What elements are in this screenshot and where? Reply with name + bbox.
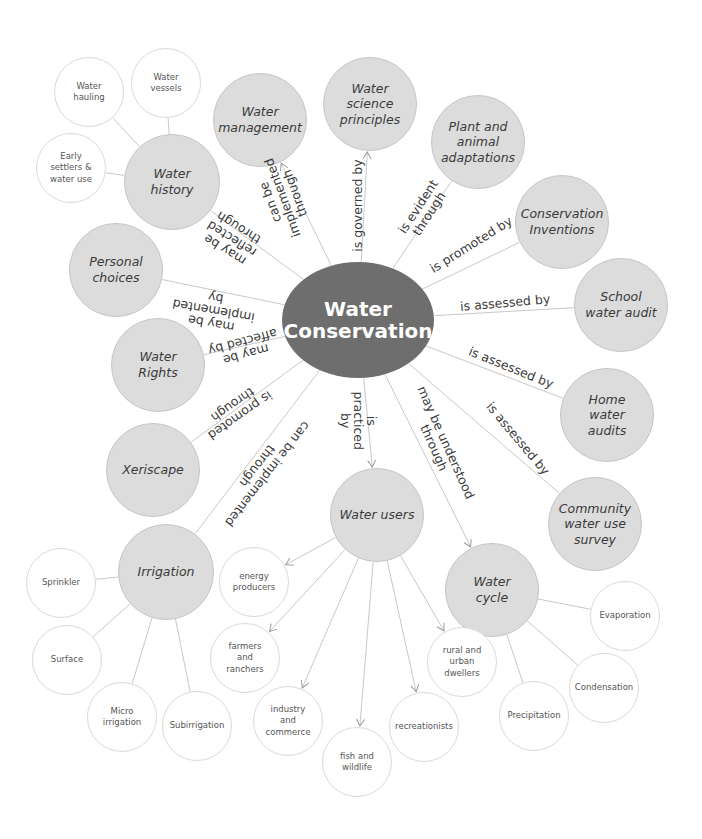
node-water-history: Water history — [124, 134, 220, 230]
leaf-line-energy-producers — [286, 537, 336, 564]
node-surface: Surface — [32, 625, 102, 695]
node-community-survey: Community water use survey — [548, 477, 642, 571]
node-precipitation: Precipitation — [499, 681, 569, 751]
leaf-line-sprinkler — [96, 577, 118, 579]
leaf-line-surface — [93, 604, 130, 637]
node-label: Water science principles — [336, 81, 404, 128]
node-condensation: Condensation — [569, 653, 639, 723]
node-label: Water vessels — [146, 72, 185, 94]
node-personal-choices: Personal choices — [69, 223, 163, 317]
leaf-line-water-vessels — [168, 118, 169, 134]
link-label-water-users: is practiced by — [339, 391, 378, 449]
node-label: Sprinkler — [38, 577, 84, 588]
node-label: industry and commerce — [262, 704, 315, 737]
node-school-audit: School water audit — [574, 258, 668, 352]
node-label: School water audit — [581, 289, 660, 320]
node-micro-irrigation: Micro irrigation — [87, 682, 157, 752]
node-label: Water Rights — [134, 349, 181, 380]
node-label: farmers and ranchers — [222, 641, 267, 674]
node-rural-urban: rural and urban dwellers — [427, 627, 497, 697]
node-label: Water cycle — [469, 574, 514, 605]
node-label: Surface — [47, 654, 87, 665]
leaf-line-precipitation — [507, 635, 523, 683]
leaf-line-recreationists — [387, 561, 416, 692]
node-irrigation: Irrigation — [118, 524, 214, 620]
node-label: recreationists — [391, 721, 457, 732]
node-label: Precipitation — [503, 710, 564, 721]
node-farmers-ranchers: farmers and ranchers — [210, 623, 280, 693]
leaf-line-micro-irrigation — [132, 618, 152, 684]
node-evaporation: Evaporation — [590, 581, 660, 651]
leaf-line-subirrigation — [175, 619, 190, 692]
node-label: Water users — [336, 507, 419, 523]
node-label: Xeriscape — [118, 462, 188, 478]
node-subirrigation: Subirrigation — [162, 691, 232, 761]
node-recreationists: recreationists — [389, 692, 459, 762]
node-water-conservation: Water Conservation — [282, 262, 434, 378]
node-label: Home water audits — [584, 392, 630, 439]
node-label: Personal choices — [85, 254, 147, 285]
node-conservation-inventions: Conservation Inventions — [515, 175, 609, 269]
node-label: rural and urban dwellers — [439, 645, 486, 678]
node-water-users: Water users — [330, 468, 424, 562]
node-label: Conservation Inventions — [517, 206, 608, 237]
node-label: Micro irrigation — [99, 706, 145, 728]
node-label: Evaporation — [595, 610, 654, 621]
node-label: Condensation — [571, 682, 637, 693]
node-xeriscape: Xeriscape — [106, 423, 200, 517]
node-label: Water history — [147, 166, 198, 197]
node-label: Community water use survey — [555, 501, 635, 548]
leaf-line-industry-commerce — [302, 558, 358, 688]
node-industry-commerce: industry and commerce — [253, 686, 323, 756]
node-plant-animal: Plant and animal adaptations — [431, 95, 525, 189]
node-sprinkler: Sprinkler — [26, 548, 96, 618]
node-label: energy producers — [229, 571, 280, 593]
node-early-settlers: Early settlers & water use — [36, 133, 106, 203]
node-label: Water Conservation — [280, 298, 437, 342]
node-label: Water management — [214, 104, 306, 135]
node-label: Irrigation — [134, 564, 199, 580]
node-water-science: Water science principles — [323, 57, 417, 151]
leaf-line-rural-urban — [401, 556, 444, 631]
node-water-management: Water management — [213, 73, 307, 167]
node-energy-producers: energy producers — [219, 547, 289, 617]
node-water-rights: Water Rights — [111, 318, 205, 412]
node-label: Early settlers & water use — [46, 151, 96, 184]
node-label: Water hauling — [69, 81, 109, 103]
leaf-line-evaporation — [538, 599, 591, 609]
node-water-cycle: Water cycle — [445, 543, 539, 637]
node-label: fish and wildlife — [336, 751, 378, 773]
leaf-line-fish-wildlife — [360, 562, 373, 726]
link-label-water-science: is governed by — [351, 159, 364, 251]
leaf-line-early-settlers — [106, 173, 125, 176]
node-home-audits: Home water audits — [560, 368, 654, 462]
node-fish-wildlife: fish and wildlife — [322, 727, 392, 797]
node-label: Subirrigation — [166, 720, 229, 731]
leaf-line-condensation — [527, 621, 577, 665]
node-water-hauling: Water hauling — [54, 57, 124, 127]
node-label: Plant and animal adaptations — [437, 119, 519, 166]
leaf-line-water-hauling — [113, 118, 140, 147]
node-water-vessels: Water vessels — [131, 48, 201, 118]
